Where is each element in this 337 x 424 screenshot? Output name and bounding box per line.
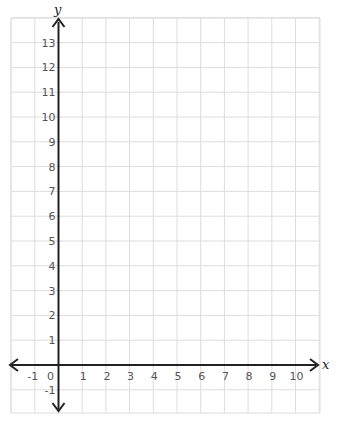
y-tick-label: 7 — [49, 185, 56, 198]
x-tick-label: 7 — [222, 370, 229, 383]
x-tick-label: 3 — [127, 370, 134, 383]
y-axis-label: y — [53, 2, 62, 17]
y-tick-label: 5 — [49, 235, 56, 248]
x-tick-labels: -1012345678910 — [27, 370, 303, 383]
y-tick-label: 10 — [42, 111, 56, 124]
x-tick-label: 5 — [175, 370, 182, 383]
y-tick-label: 6 — [49, 210, 56, 223]
y-tick-label: 9 — [49, 136, 56, 149]
y-tick-label: 1 — [49, 334, 56, 347]
x-tick-label: 10 — [290, 370, 304, 383]
x-tick-label: 1 — [80, 370, 87, 383]
y-tick-label: 12 — [42, 61, 56, 74]
y-tick-label: -1 — [45, 384, 56, 397]
x-tick-label: 8 — [246, 370, 253, 383]
y-tick-label: 3 — [49, 285, 56, 298]
x-axis-label: x — [322, 357, 330, 372]
x-tick-label: 4 — [151, 370, 158, 383]
x-tick-label: 0 — [47, 370, 54, 383]
y-tick-label: 2 — [49, 309, 56, 322]
x-tick-label: 2 — [103, 370, 110, 383]
y-tick-label: 4 — [49, 260, 56, 273]
coordinate-plane: x y -1012345678910 13121110987654321-1 — [0, 0, 337, 424]
y-tick-label: 11 — [42, 86, 56, 99]
y-tick-label: 8 — [49, 161, 56, 174]
x-tick-label: 6 — [198, 370, 205, 383]
grid-lines — [11, 18, 320, 413]
y-tick-label: 13 — [42, 37, 56, 50]
x-tick-label: 9 — [269, 370, 276, 383]
x-tick-label: -1 — [27, 370, 38, 383]
